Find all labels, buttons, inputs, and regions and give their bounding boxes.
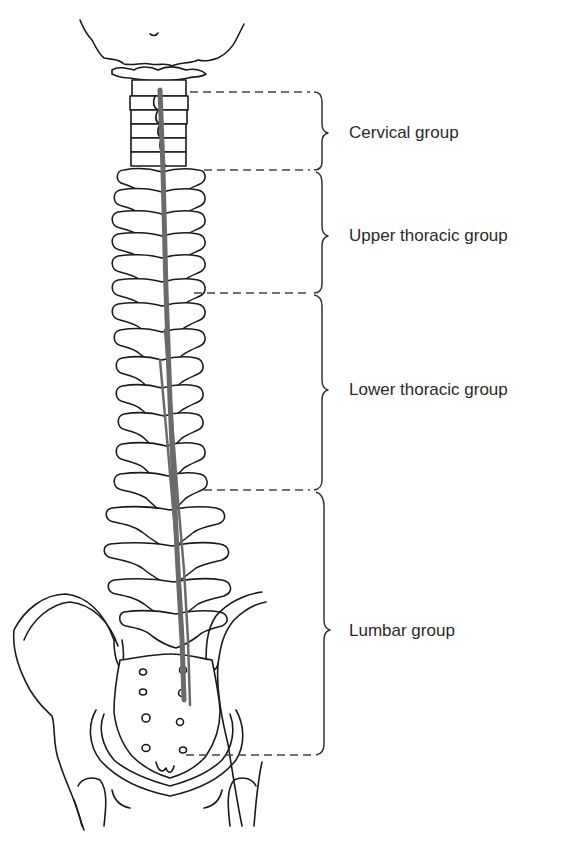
label-upper-thoracic-group: Upper thoracic group bbox=[349, 227, 508, 244]
lumbar-vertebrae bbox=[104, 507, 230, 648]
label-cervical-group: Cervical group bbox=[349, 124, 459, 141]
label-lower-thoracic-group: Lower thoracic group bbox=[349, 381, 508, 398]
skull-base bbox=[80, 20, 244, 82]
brace-upper-thoracic bbox=[314, 172, 328, 293]
thoracic-vertebrae bbox=[112, 169, 207, 518]
spine-diagram bbox=[0, 0, 568, 849]
brace-lower-thoracic bbox=[314, 295, 328, 490]
label-lumbar-group: Lumbar group bbox=[349, 622, 455, 639]
group-braces bbox=[314, 92, 330, 755]
brace-lumbar bbox=[316, 492, 330, 755]
brace-cervical bbox=[314, 92, 328, 170]
